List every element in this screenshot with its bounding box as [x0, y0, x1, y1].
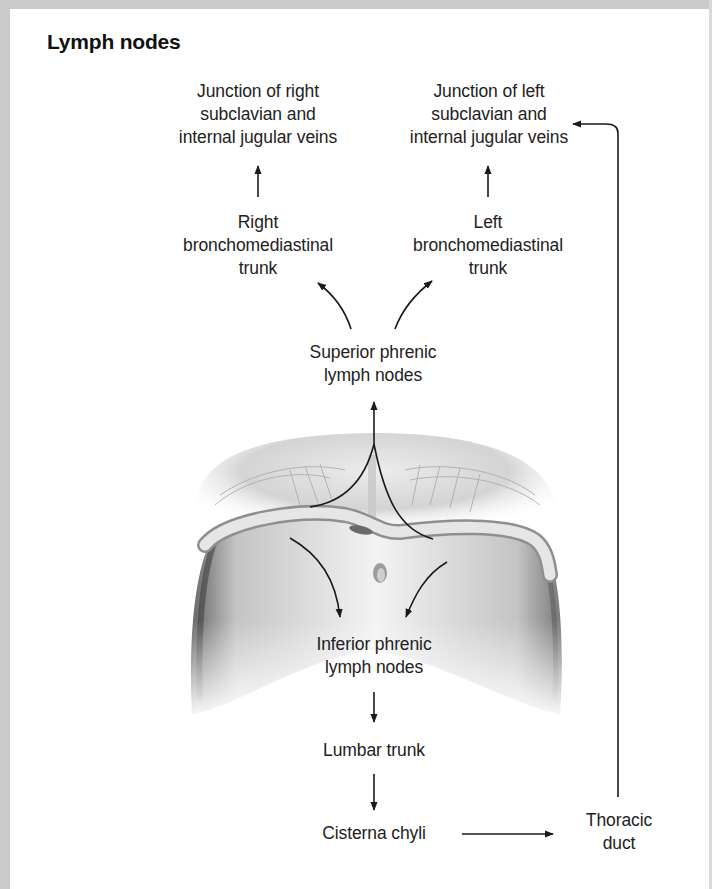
node-line: duct	[586, 832, 652, 855]
node-line: bronchomediastinal	[413, 234, 563, 257]
node-line: Superior phrenic	[310, 341, 437, 364]
node-right-bronchomediastinal-trunk: Right bronchomediastinal trunk	[183, 211, 333, 280]
node-line: lymph nodes	[316, 656, 431, 679]
node-line: subclavian and	[179, 103, 337, 126]
node-line: Junction of left	[410, 80, 568, 103]
node-line: Thoracic	[586, 809, 652, 832]
node-superior-phrenic-lymph-nodes: Superior phrenic lymph nodes	[310, 341, 437, 387]
node-line: subclavian and	[410, 103, 568, 126]
node-line: Junction of right	[179, 80, 337, 103]
node-line: Lumbar trunk	[323, 739, 425, 762]
node-left-bronchomediastinal-trunk: Left bronchomediastinal trunk	[413, 211, 563, 280]
node-line: Inferior phrenic	[316, 633, 431, 656]
arrow-superior-to-right-trunk	[318, 283, 351, 329]
arrow-thoracic-to-left-junction	[573, 124, 618, 797]
node-lumbar-trunk: Lumbar trunk	[323, 739, 425, 762]
node-line: trunk	[413, 257, 563, 280]
node-inferior-phrenic-lymph-nodes: Inferior phrenic lymph nodes	[316, 633, 431, 679]
node-line: Left	[413, 211, 563, 234]
node-line: internal jugular veins	[179, 126, 337, 149]
arrow-superior-to-left-trunk	[395, 281, 432, 329]
node-junction-right: Junction of right subclavian and interna…	[179, 80, 337, 149]
node-line: Cisterna chyli	[322, 822, 426, 845]
figure-title: Lymph nodes	[47, 30, 181, 54]
node-line: internal jugular veins	[410, 126, 568, 149]
node-line: lymph nodes	[310, 364, 437, 387]
node-line: Right	[183, 211, 333, 234]
node-thoracic-duct: Thoracic duct	[586, 809, 652, 855]
node-junction-left: Junction of left subclavian and internal…	[410, 80, 568, 149]
node-cisterna-chyli: Cisterna chyli	[322, 822, 426, 845]
node-line: trunk	[183, 257, 333, 280]
node-line: bronchomediastinal	[183, 234, 333, 257]
